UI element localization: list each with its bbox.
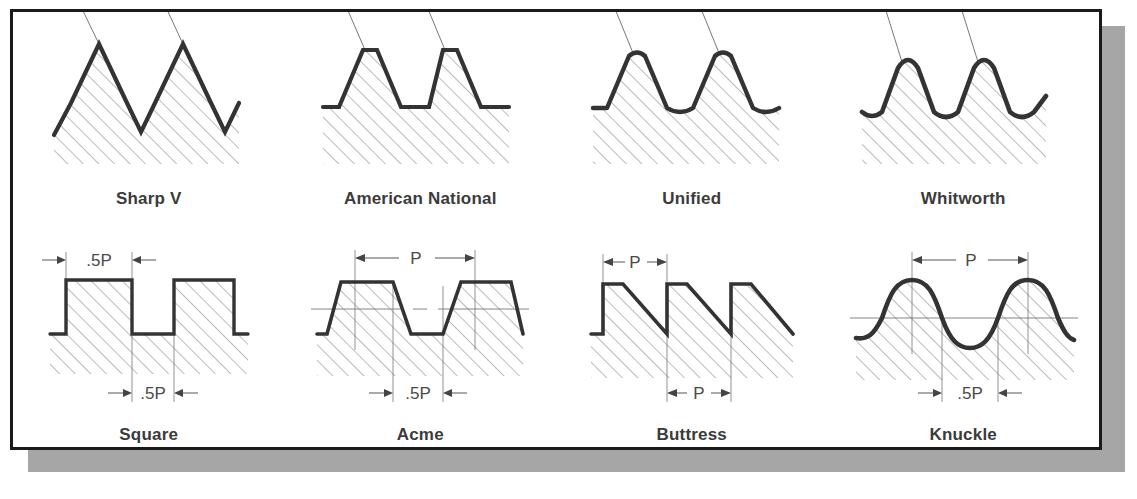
acme-bottom-dimension: .5P <box>369 384 467 403</box>
buttress-label: Buttress <box>656 425 727 445</box>
knuckle-bottom-dimension: .5P <box>918 384 1022 403</box>
buttress-top-dimension-label: P <box>629 253 640 272</box>
knuckle-top-dimension-label: P <box>966 251 977 270</box>
acme-label: Acme <box>397 425 444 445</box>
whitworth-leader-lines <box>882 12 978 62</box>
square-top-dimension: .5P <box>42 251 156 270</box>
sharp-v-profile-drawing: 60° <box>24 12 274 187</box>
knuckle-bottom-dimension-label: .5P <box>957 384 983 403</box>
sharp-v-leader-lines <box>72 12 183 44</box>
acme-profile-drawing: P .5P <box>295 230 545 425</box>
knuckle-profile-drawing: P .5P <box>838 230 1088 425</box>
thread-grid: 60° Sharp V <box>13 12 1099 447</box>
acme-top-dimension: P <box>355 249 475 268</box>
american-national-label: American National <box>344 189 497 209</box>
thread-cell-buttress: P P Buttress <box>556 230 828 448</box>
figure-frame: 60° Sharp V <box>10 9 1102 450</box>
knuckle-label: Knuckle <box>929 425 997 445</box>
thread-cell-square: .5P .5P Square <box>13 230 285 448</box>
sharp-v-hatching <box>44 37 254 167</box>
square-bottom-dimension: .5P <box>108 384 198 403</box>
thread-cell-acme: P .5P Acme <box>285 230 557 448</box>
sharp-v-label: Sharp V <box>116 189 182 209</box>
unified-leader-lines <box>609 12 719 53</box>
knuckle-top-dimension: P <box>912 251 1028 270</box>
acme-hatching <box>307 274 533 384</box>
buttress-top-dimension: P <box>603 253 667 272</box>
square-hatching <box>40 272 260 384</box>
whitworth-profile-drawing: 55° <box>838 12 1088 187</box>
american-national-leader-lines <box>340 12 445 50</box>
unified-label: Unified <box>662 189 721 209</box>
thread-forms-figure: 60° Sharp V <box>0 0 1137 499</box>
buttress-bottom-dimension: P <box>667 384 731 403</box>
buttress-profile-drawing: P P <box>567 230 817 425</box>
square-label: Square <box>119 425 178 445</box>
square-top-dimension-label: .5P <box>86 251 112 270</box>
whitworth-label: Whitworth <box>921 189 1006 209</box>
unified-profile-drawing: 60° <box>567 12 817 187</box>
acme-bottom-dimension-label: .5P <box>405 384 431 403</box>
thread-cell-sharp-v: 60° Sharp V <box>13 12 285 230</box>
thread-cell-whitworth: 55° Whitworth <box>828 12 1100 230</box>
thread-cell-knuckle: P .5P Knuckle <box>828 230 1100 448</box>
thread-cell-american-national: 60° American National <box>285 12 557 230</box>
buttress-hatching <box>581 276 803 388</box>
buttress-bottom-dimension-label: P <box>693 384 704 403</box>
square-profile-drawing: .5P .5P <box>24 230 274 425</box>
thread-cell-unified: 60° Unified <box>556 12 828 230</box>
american-national-profile-drawing: 60° <box>295 12 545 187</box>
acme-top-dimension-label: P <box>411 249 422 268</box>
square-bottom-dimension-label: .5P <box>140 384 166 403</box>
